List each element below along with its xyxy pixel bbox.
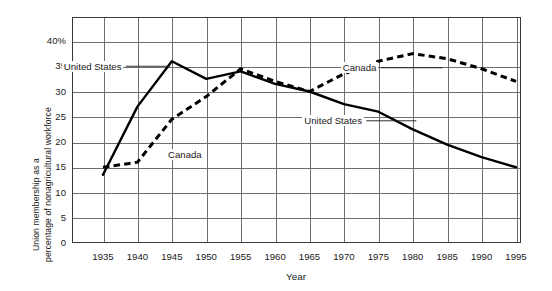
gridline-h-5	[73, 218, 520, 219]
annotation-canada-2: Canada	[341, 62, 379, 73]
y-tick-40pct: 40%	[26, 35, 66, 46]
x-tick-1995: 1995	[494, 251, 538, 262]
gridline-h-10	[73, 193, 520, 194]
y-tick-10: 10	[26, 187, 66, 198]
gridline-h-20	[73, 143, 520, 144]
figure-caption	[64, 283, 494, 291]
gridline-v-1950	[207, 18, 208, 242]
y-tick-30: 30	[26, 86, 66, 97]
gridline-v-1975	[379, 18, 380, 242]
y-tick-15: 15	[26, 161, 66, 172]
gridline-h-30	[73, 92, 520, 93]
annotation-united-states-0: United States	[62, 61, 124, 72]
y-tick-5: 5	[26, 212, 66, 223]
gridline-v-1965	[310, 18, 311, 242]
gridline-v-1980	[413, 18, 414, 242]
gridline-v-1985	[448, 18, 449, 242]
gridline-v-1990	[482, 18, 483, 242]
y-tick-0: 0	[26, 237, 66, 248]
gridline-h-40	[73, 42, 520, 43]
x-axis-title: Year	[236, 271, 356, 282]
gridline-v-1945	[172, 18, 173, 242]
annotation-canada-1: Canada	[166, 149, 204, 160]
gridline-h-25	[73, 117, 520, 118]
gridline-v-1970	[344, 18, 345, 242]
gridline-v-1995	[517, 18, 518, 242]
gridline-h-35	[73, 67, 520, 68]
chart-figure: Union membership as a percentage of nona…	[0, 0, 552, 291]
plot-area	[72, 17, 521, 243]
y-tick-25: 25	[26, 111, 66, 122]
gridline-v-1935	[104, 18, 105, 242]
gridline-v-1940	[138, 18, 139, 242]
y-tick-35: 35	[26, 60, 66, 71]
gridline-v-1955	[241, 18, 242, 242]
annotation-united-states-3: United States	[302, 115, 364, 126]
gridline-v-1960	[276, 18, 277, 242]
gridline-h-15	[73, 168, 520, 169]
y-tick-20: 20	[26, 136, 66, 147]
